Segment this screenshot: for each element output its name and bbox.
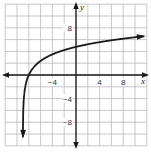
axes	[2, 2, 149, 149]
x-axis-label: x	[140, 76, 145, 86]
x-tick-label: −4	[48, 78, 58, 87]
curve-right-arrow-icon	[137, 34, 146, 40]
y-axis-top-arrow-icon	[73, 2, 78, 9]
x-tick-label: 8	[121, 78, 126, 87]
graph: −4488−4−8 x y	[0, 0, 151, 152]
y-tick-label: 8	[68, 24, 73, 33]
y-axis-label: y	[79, 2, 84, 12]
x-tick-label: 4	[97, 78, 102, 87]
y-tick-label: −4	[63, 95, 73, 104]
y-tick-label: −8	[63, 118, 73, 127]
